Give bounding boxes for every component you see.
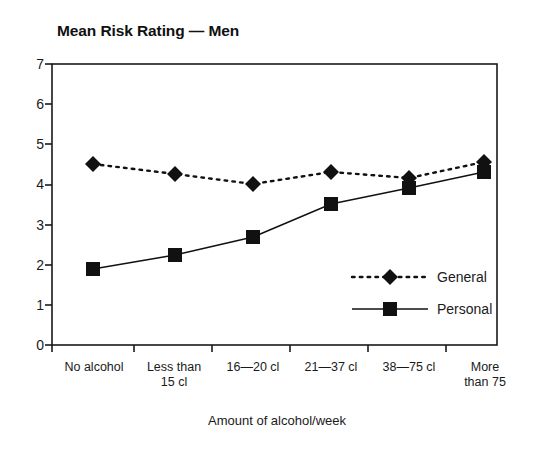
x-axis-tick-label-5: More than 75	[443, 360, 527, 390]
legend-label-general: General	[437, 269, 487, 285]
series-personal	[86, 165, 491, 276]
x-axis-tick-label-4-line-0: 38—75 cl	[364, 360, 454, 375]
x-axis-tick-label-2: 16—20 cl	[208, 360, 298, 375]
x-axis-tick-label-3-line-0: 21—37 cl	[286, 360, 376, 375]
x-axis-tick-label-2-line-0: 16—20 cl	[208, 360, 298, 375]
x-axis-title: Amount of alcohol/week	[0, 413, 554, 428]
x-axis-tick-label-1-line-0: Less than	[128, 360, 220, 375]
x-axis-tick-label-4: 38—75 cl	[364, 360, 454, 375]
series-general	[85, 154, 492, 192]
legend-label-personal: Personal	[437, 301, 492, 317]
x-axis-tick-label-3: 21—37 cl	[286, 360, 376, 375]
series-general-markers	[85, 154, 492, 192]
series-general-line	[93, 162, 484, 184]
x-axis-tick-label-5-line-0: More	[443, 360, 527, 375]
x-axis-tick-label-1: Less than 15 cl	[128, 360, 220, 390]
x-axis-tick-label-0: No alcohol	[48, 360, 140, 375]
plot-frame	[52, 64, 497, 345]
legend	[352, 269, 428, 316]
x-axis-tick-label-0-line-0: No alcohol	[48, 360, 140, 375]
legend-key-personal	[352, 302, 428, 316]
legend-key-general	[352, 269, 428, 285]
chart-figure: Mean Risk Rating — Men 7 6 5 4 3 2 1 0	[0, 0, 554, 454]
x-axis-tick-label-5-line-1: than 75	[443, 375, 527, 390]
x-axis-ticks	[52, 345, 446, 352]
series-personal-line	[93, 172, 484, 269]
y-axis-ticks	[45, 64, 52, 345]
x-axis-tick-label-1-line-1: 15 cl	[128, 375, 220, 390]
